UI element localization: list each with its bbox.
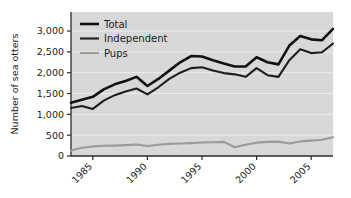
y-axis-tick-label: 1,500 (37, 88, 64, 99)
x-axis-tick-label: 1995 (179, 161, 204, 186)
x-axis-tick-label: 2000 (233, 161, 258, 186)
y-axis-title: Number of sea otters (9, 33, 20, 134)
y-axis-tick-labels: 05001,0001,5002,0002,5003,000 (37, 25, 64, 161)
y-axis-tick-label: 1,000 (37, 109, 64, 120)
sea-otter-line-chart: 05001,0001,5002,0002,5003,000 1985199019… (0, 0, 351, 198)
x-axis-tick-label: 2005 (288, 161, 313, 186)
y-axis-tick-label: 0 (58, 150, 64, 161)
y-axis-tick-label: 2,000 (37, 67, 64, 78)
x-axis-tick-labels: 19851990199520002005 (69, 161, 312, 186)
y-axis-tick-label: 500 (46, 130, 64, 141)
y-axis-tick-label: 2,500 (37, 46, 64, 57)
chart-canvas: 05001,0001,5002,0002,5003,000 1985199019… (0, 0, 351, 198)
x-axis-tick-label: 1990 (124, 161, 149, 186)
x-axis-tick-label: 1985 (69, 161, 94, 186)
legend-label-total: Total (103, 19, 127, 30)
legend-label-independent: Independent (104, 33, 167, 44)
y-axis-tick-label: 3,000 (37, 25, 64, 36)
legend-label-pups: Pups (104, 48, 128, 59)
